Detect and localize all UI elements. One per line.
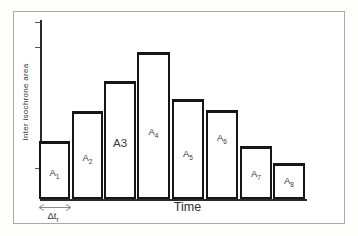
bar-label-a5: A5 bbox=[174, 148, 202, 160]
delta-t-subscript: r bbox=[56, 216, 58, 223]
bar-label-a6: A6 bbox=[208, 132, 236, 144]
bar-a8: A8 bbox=[273, 163, 305, 199]
y-axis-tick bbox=[35, 22, 40, 23]
delta-t-label: Δtr bbox=[36, 210, 70, 223]
bar-label-a1: A1 bbox=[41, 167, 68, 179]
x-axis-label: Time bbox=[145, 200, 230, 214]
bar-a1: A1 bbox=[39, 141, 70, 199]
bar-label-a2: A2 bbox=[74, 152, 101, 164]
bar-a4: A4 bbox=[137, 52, 170, 199]
bar-a5: A5 bbox=[172, 99, 204, 199]
bar-label-a8: A8 bbox=[275, 175, 303, 187]
bar-a6: A6 bbox=[206, 110, 238, 199]
bar-label-a7: A7 bbox=[242, 168, 270, 180]
bar-label-a4: A4 bbox=[139, 126, 168, 138]
figure: Inter isochrone area Time Δtr A1A2A3A4A5… bbox=[0, 0, 358, 236]
y-axis-label: Inter isochrone area bbox=[21, 52, 31, 152]
y-axis-tick bbox=[35, 47, 40, 48]
bar-a2: A2 bbox=[72, 111, 103, 199]
bar-a3: A3 bbox=[104, 81, 136, 199]
plot-area: Inter isochrone area Time Δtr A1A2A3A4A5… bbox=[0, 0, 358, 236]
bar-label-a3: A3 bbox=[106, 137, 134, 149]
bar-a7: A7 bbox=[240, 146, 272, 199]
